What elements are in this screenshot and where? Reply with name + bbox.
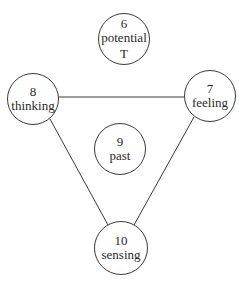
node-number: 7	[207, 82, 214, 96]
node-sensing: 10 sensing	[94, 221, 148, 275]
node-number: 6	[121, 17, 128, 31]
node-number: 10	[115, 234, 128, 248]
node-number: 8	[30, 85, 37, 99]
node-label: past	[110, 149, 131, 163]
node-thinking: 8 thinking	[7, 73, 59, 125]
node-label: feeling	[192, 96, 228, 110]
node-label: potential	[101, 31, 147, 45]
node-number: 9	[117, 135, 124, 149]
node-past: 9 past	[94, 123, 146, 175]
node-label: thinking	[11, 99, 54, 113]
edge-feeling-sensing	[134, 117, 194, 225]
node-feeling: 7 feeling	[184, 70, 236, 122]
node-potential: 6 potential T	[98, 13, 150, 65]
node-label: sensing	[102, 248, 141, 262]
node-extra: T	[120, 47, 128, 61]
